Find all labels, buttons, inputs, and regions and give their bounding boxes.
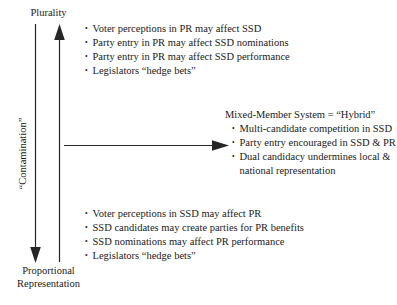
hybrid-outcomes-heading: Mixed-Member System = “Hybrid” <box>225 108 397 122</box>
list-item: SSD candidates may create parties for PR… <box>85 221 385 235</box>
diagram-canvas: Plurality ProportionalRepresentation “Co… <box>0 0 397 305</box>
list-item: Dual candidacy undermines local & nation… <box>232 150 397 178</box>
hybrid-outcomes-list: Multi-candidate competition in SSD Party… <box>232 122 397 178</box>
list-item: Legislators “hedge bets” <box>85 249 385 263</box>
top-effects-list: Voter perceptions in PR may affect SSD P… <box>85 22 385 78</box>
hybrid-outcomes-block: Mixed-Member System = “Hybrid” Multi-can… <box>225 108 397 178</box>
list-item: Multi-candidate competition in SSD <box>232 122 397 136</box>
rightward-arrow <box>64 140 229 151</box>
list-item: SSD nominations may affect PR performanc… <box>85 235 385 249</box>
axis-label-contamination: “Contamination” <box>17 104 28 204</box>
bottom-effects-block: Voter perceptions in SSD may affect PR S… <box>85 207 385 263</box>
list-item: Voter perceptions in SSD may affect PR <box>85 207 385 221</box>
list-item: Party entry in PR may affect SSD nominat… <box>85 36 385 50</box>
top-effects-block: Voter perceptions in PR may affect SSD P… <box>85 22 385 78</box>
pr-label-line-2: Representation <box>17 278 80 289</box>
list-item: Party entry in PR may affect SSD perform… <box>85 50 385 64</box>
upward-arrow <box>54 24 65 262</box>
list-item: Voter perceptions in PR may affect SSD <box>85 22 385 36</box>
list-item: Legislators “hedge bets” <box>85 64 385 78</box>
bottom-effects-list: Voter perceptions in SSD may affect PR S… <box>85 207 385 263</box>
downward-arrow <box>30 24 41 263</box>
axis-label-proportional-representation: ProportionalRepresentation <box>0 264 97 290</box>
axis-label-plurality: Plurality <box>0 6 97 19</box>
pr-label-line-1: Proportional <box>22 265 75 276</box>
list-item: Party entry encouraged in SSD & PR <box>232 136 397 150</box>
